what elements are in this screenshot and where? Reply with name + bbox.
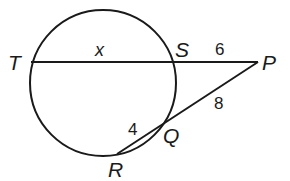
point-label-T: T	[8, 51, 23, 74]
segment-label-QP: 8	[214, 94, 223, 113]
point-label-P: P	[262, 51, 276, 74]
segment-label-SP: 6	[215, 40, 224, 59]
point-label-R: R	[108, 158, 123, 181]
point-label-Q: Q	[163, 124, 179, 147]
circle	[30, 10, 176, 156]
secant-circle-diagram: T S P Q R x 6 4 8	[0, 0, 290, 181]
point-label-S: S	[175, 38, 189, 61]
secant-line-RP	[117, 62, 258, 154]
segment-label-TS: x	[94, 40, 105, 60]
segment-label-RQ: 4	[128, 120, 137, 139]
